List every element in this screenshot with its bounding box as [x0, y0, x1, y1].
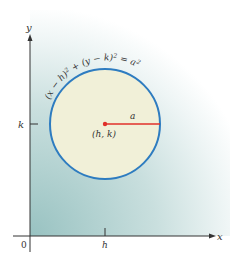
origin-label: 0: [21, 240, 27, 250]
circle-equation-diagram: y x 0 h k a (h, k) (x − h)2 + (y − k)2 =…: [0, 0, 230, 269]
center-point: [103, 122, 107, 126]
y-tick-label-k: k: [18, 119, 24, 130]
x-tick-label-h: h: [102, 240, 108, 250]
radius-label: a: [130, 111, 135, 121]
center-label: (h, k): [92, 129, 116, 139]
x-axis-label: x: [217, 231, 223, 242]
y-axis-label: y: [25, 22, 32, 33]
